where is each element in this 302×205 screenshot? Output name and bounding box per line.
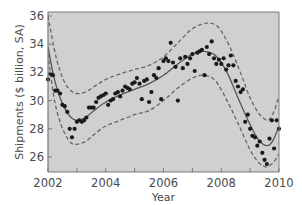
x-tick-label: 2008 (207, 176, 236, 190)
chart-canvas: 262830323436 20022004200620082010 Shipme… (0, 0, 302, 205)
data-point (222, 56, 226, 60)
data-point (210, 39, 214, 43)
y-tick-label: 28 (29, 122, 44, 136)
data-point (255, 144, 259, 148)
data-point (58, 91, 62, 95)
data-point (51, 73, 55, 77)
x-tick-label: 2006 (149, 176, 178, 190)
data-point (265, 162, 269, 166)
data-point (169, 41, 173, 45)
data-point (246, 113, 250, 117)
x-axis-label: Year (151, 191, 176, 204)
data-point (65, 110, 69, 114)
data-point (241, 87, 245, 91)
y-tick-label: 34 (29, 37, 44, 51)
data-point (94, 100, 98, 104)
data-point (272, 146, 276, 150)
data-point (137, 82, 141, 86)
data-point (185, 62, 189, 66)
data-point (202, 73, 206, 77)
data-point (207, 52, 211, 56)
data-point (133, 80, 137, 84)
data-point (154, 76, 158, 80)
data-point (159, 97, 163, 101)
data-point (229, 53, 233, 57)
data-point (190, 52, 194, 56)
x-tick-label: 2002 (33, 176, 62, 190)
data-point (68, 127, 72, 131)
data-point (260, 151, 264, 155)
data-point (275, 118, 279, 122)
data-point (236, 84, 240, 88)
data-point (120, 89, 124, 93)
y-tick-label: 32 (29, 65, 44, 79)
data-point (111, 97, 115, 101)
data-point (147, 100, 151, 104)
data-point (176, 99, 180, 103)
data-point (217, 58, 221, 62)
data-point (212, 56, 216, 60)
data-point (145, 77, 149, 81)
data-point (181, 66, 185, 70)
data-point (116, 90, 120, 94)
y-tick-label: 36 (29, 9, 44, 23)
data-point (84, 115, 88, 119)
data-point (63, 104, 67, 108)
data-point (183, 55, 187, 59)
data-point (166, 59, 170, 63)
data-point (106, 103, 110, 107)
data-point (157, 66, 161, 70)
data-point (243, 120, 247, 124)
data-point (267, 137, 271, 141)
data-point (224, 68, 228, 72)
data-point (92, 106, 96, 110)
data-point (258, 139, 262, 143)
data-point (70, 135, 74, 139)
y-axis-label: Shipments ($ billion, SA) (13, 24, 26, 160)
data-point (248, 127, 252, 131)
data-point (263, 158, 267, 162)
data-point (149, 90, 153, 94)
data-point (270, 118, 274, 122)
x-tick-label: 2004 (91, 176, 120, 190)
shipments-scatter-chart: 262830323436 20022004200620082010 Shipme… (0, 0, 302, 205)
data-point (253, 135, 257, 139)
y-tick-label: 26 (29, 150, 44, 164)
data-point (188, 56, 192, 60)
data-point (128, 87, 132, 91)
data-point (226, 63, 230, 67)
data-point (73, 127, 77, 131)
data-point (140, 97, 144, 101)
data-point (104, 91, 108, 95)
data-point (214, 62, 218, 66)
data-point (118, 94, 122, 98)
data-point (231, 63, 235, 67)
plot-area (48, 12, 279, 172)
data-point (178, 56, 182, 60)
x-tick-label: 2010 (264, 176, 293, 190)
data-point (171, 60, 175, 64)
data-point (135, 76, 139, 80)
data-point (200, 48, 204, 52)
data-point (219, 62, 223, 66)
data-point (193, 69, 197, 73)
data-point (174, 65, 178, 69)
y-tick-label: 30 (29, 94, 44, 108)
data-point (205, 45, 209, 49)
data-point (234, 79, 238, 83)
